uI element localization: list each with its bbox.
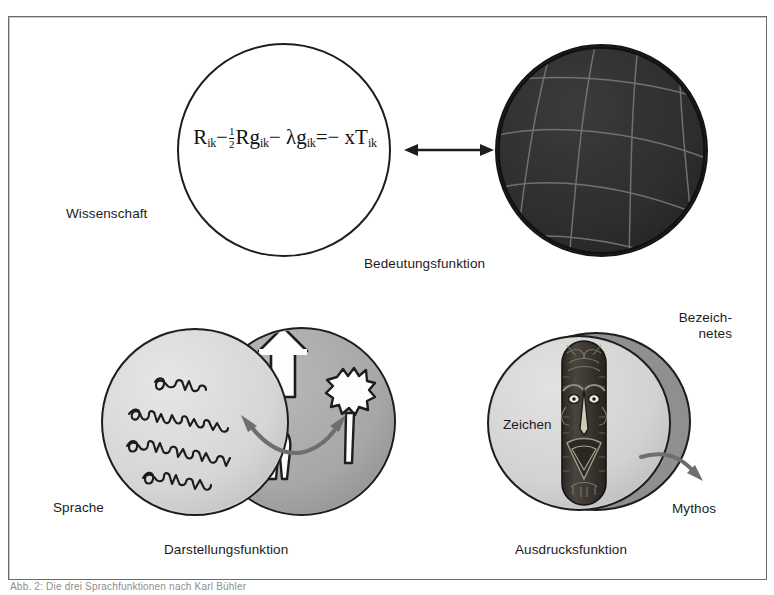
label-darstellungsfunktion: Darstellungsfunktion [164,542,288,558]
mythos-curved-arrow-icon [639,437,711,481]
figure-stage: Rik−12Rgik− λgik=− xTik Wissenschaft [0,0,774,595]
label-bezeichnetes: Bezeich- netes [656,310,732,342]
darstellung-double-arrow-icon [234,409,352,463]
label-ausdrucksfunktion: Ausdrucksfunktion [515,542,627,558]
label-wissenschaft: Wissenschaft [66,206,147,222]
curved-spacetime-grid-icon [497,46,706,255]
label-sprache: Sprache [53,500,104,516]
spacetime-sphere [495,44,708,257]
label-mythos: Mythos [672,501,716,517]
mask-body [562,341,607,505]
figure-frame: Rik−12Rgik− λgik=− xTik Wissenschaft [8,16,767,580]
label-bedeutungsfunktion: Bedeutungsfunktion [364,256,485,272]
label-zeichen: Zeichen [503,417,552,433]
figure-caption: Abb. 2: Die drei Sprachfunktionen nach K… [10,581,246,592]
double-arrow-icon [404,142,494,158]
einstein-field-equation: Rik−12Rgik− λgik=− xTik [185,125,385,151]
